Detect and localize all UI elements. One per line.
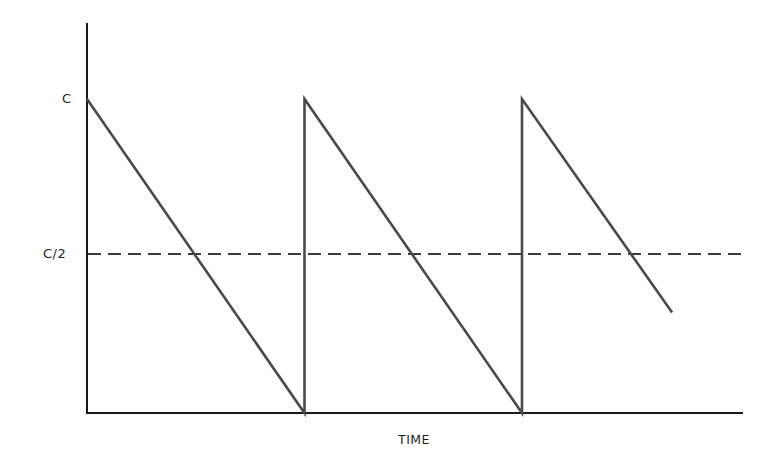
sawtooth-chart (0, 0, 779, 462)
x-axis-label: TIME (398, 432, 430, 447)
sawtooth-series (87, 99, 672, 413)
y-tick-label-c: C (62, 91, 72, 106)
y-tick-label-c-half: C/2 (43, 246, 66, 261)
